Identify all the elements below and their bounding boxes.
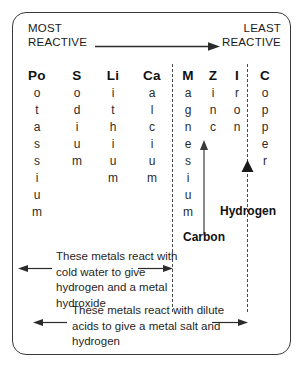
element-name-letter: i [200,85,226,102]
element-name-letter: o [64,85,90,102]
element-name-letter: n [224,119,250,136]
element-name-letter: s [24,153,50,170]
element-symbol: I [224,68,250,85]
element-name-letter: d [64,102,90,119]
element-name-letter: o [24,85,50,102]
element-symbol: Ca [139,68,165,85]
element-name-letter: l [139,102,165,119]
hydrogen-label: Hydrogen [212,204,284,218]
element-name-letter: i [139,136,165,153]
element-name-letter: m [64,153,90,170]
element-name-letter: t [24,102,50,119]
element-symbol: C [252,68,278,85]
least-reactive-label: LEAST REACTIVE [222,22,281,49]
element-name-letter: p [252,119,278,136]
element-column-calcium: Caalcium [139,68,165,187]
note-dilute-acids: These metals react with dilute acids to … [72,303,232,350]
element-symbol: Li [100,68,126,85]
element-column-potassium: Pootassium [24,68,50,221]
note-cold-water: These metals react with cold water to gi… [56,249,181,311]
element-name-letter: o [224,102,250,119]
decreasing-reactivity-arrow-icon [95,41,220,52]
element-symbol: S [64,68,90,85]
element-column-sodium: Sodium [64,68,90,170]
element-name-letter: g [175,102,201,119]
cold-water-right-arrow-icon [138,264,173,273]
element-symbol: M [175,68,201,85]
dilute-acids-right-arrow-icon [212,318,248,327]
element-name-letter: t [100,102,126,119]
element-name-letter: m [100,170,126,187]
element-name-letter: u [139,153,165,170]
element-name-letter: u [24,187,50,204]
element-name-letter: n [175,119,201,136]
element-name-letter: r [252,153,278,170]
element-column-zinc: Zinc [200,68,226,136]
element-name-letter: i [64,119,90,136]
element-name-letter: c [139,119,165,136]
element-name-letter: u [100,153,126,170]
most-reactive-label: MOST REACTIVE [28,22,87,49]
cold-water-left-arrow-icon [18,264,52,273]
element-name-letter: u [64,136,90,153]
element-name-letter: e [252,136,278,153]
element-name-letter: s [24,136,50,153]
element-name-letter: h [100,119,126,136]
element-name-letter: p [252,102,278,119]
carbon-position-arrow-icon [196,140,212,235]
dilute-acids-left-arrow-icon [33,318,67,327]
element-column-iron: Iron [224,68,250,136]
element-name-letter: i [100,85,126,102]
element-column-copper: Copper [252,68,278,170]
element-name-letter: m [139,170,165,187]
element-name-letter: m [24,204,50,221]
element-name-letter: n [200,102,226,119]
element-name-letter: o [252,85,278,102]
element-column-lithium: Liithium [100,68,126,187]
hydrogen-position-marker-icon [240,160,255,173]
element-name-letter: a [139,85,165,102]
element-name-letter: a [24,119,50,136]
element-name-letter: i [24,170,50,187]
element-name-letter: c [200,119,226,136]
element-name-letter: r [224,85,250,102]
element-name-letter: i [100,136,126,153]
element-symbol: Z [200,68,226,85]
element-symbol: Po [24,68,50,85]
carbon-label: Carbon [168,230,240,244]
reactivity-series-diagram: MOST REACTIVE LEAST REACTIVE PootassiumS… [0,0,305,370]
element-name-letter: a [175,85,201,102]
